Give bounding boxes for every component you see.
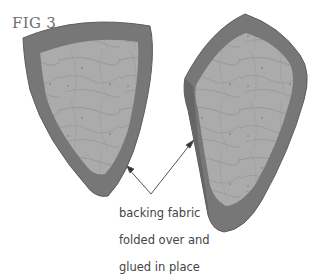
arrow-left-head [127,166,134,173]
caption: backing fabric folded over and glued in … [119,193,210,278]
caption-line-2: folded over and [119,234,210,248]
arrow-right-line [151,142,192,194]
callout-arrows [127,140,194,194]
arrow-right-head [186,140,194,148]
caption-line-1: backing fabric [119,207,210,221]
caption-line-3: glued in place [119,261,210,275]
